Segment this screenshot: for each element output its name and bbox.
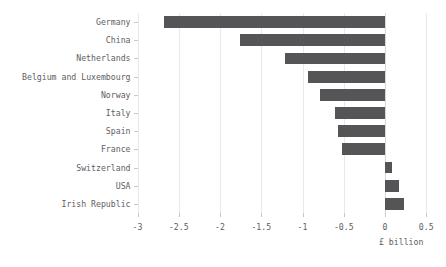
plot-area <box>138 13 427 213</box>
y-axis-tick-mark <box>134 204 138 205</box>
x-axis-tick-mark <box>344 213 345 217</box>
bar <box>240 34 385 46</box>
x-axis-tick-label: -2 <box>215 223 225 231</box>
bar <box>385 162 392 174</box>
bar-row <box>138 122 427 140</box>
y-axis-tick-mark <box>134 149 138 150</box>
x-axis-tick-mark <box>138 213 139 217</box>
x-axis-tick-mark <box>261 213 262 217</box>
bar <box>335 107 385 119</box>
x-axis-tick-label: -1 <box>298 223 308 231</box>
x-axis-title: £ billion <box>379 238 423 246</box>
x-axis-tick-label: 0 <box>383 223 388 231</box>
bar <box>342 143 385 155</box>
y-axis-tick-mark <box>134 95 138 96</box>
bar <box>285 53 385 65</box>
bar <box>338 125 385 137</box>
bar-row <box>138 31 427 49</box>
x-axis-tick-mark <box>426 213 427 217</box>
x-axis-tick-label: -0.5 <box>334 223 354 231</box>
y-axis-tick-label: Norway <box>101 91 131 99</box>
bar <box>385 180 399 192</box>
y-axis-tick-label: Italy <box>106 109 131 117</box>
x-axis-tick-label: -1.5 <box>251 223 271 231</box>
bar-row <box>138 86 427 104</box>
x-axis-tick-label: -2.5 <box>169 223 189 231</box>
x-axis-tick-mark <box>303 213 304 217</box>
y-axis-tick-mark <box>134 113 138 114</box>
bar-row <box>138 13 427 31</box>
x-axis-tick-mark <box>179 213 180 217</box>
y-axis-tick-label: USA <box>116 182 131 190</box>
x-axis-tick-mark <box>220 213 221 217</box>
gridline-0p5 <box>426 13 427 213</box>
y-axis-tick-mark <box>134 131 138 132</box>
bar <box>164 16 385 28</box>
y-axis-tick-label: Germany <box>96 18 131 26</box>
bar-row <box>138 104 427 122</box>
y-axis-tick-label: Netherlands <box>76 54 130 62</box>
y-axis-tick-mark <box>134 58 138 59</box>
y-axis-tick-label: Spain <box>106 127 131 135</box>
bar <box>320 89 385 101</box>
bar-row <box>138 68 427 86</box>
bar-row <box>138 158 427 176</box>
y-axis-tick-label: Irish Republic <box>61 200 130 208</box>
y-axis-tick-label: Switzerland <box>76 164 130 172</box>
y-axis-tick-mark <box>134 40 138 41</box>
y-axis-tick-label: China <box>106 36 131 44</box>
y-axis-tick-label: Belgium and Luxembourg <box>22 73 130 81</box>
x-axis-tick-label: -3 <box>133 223 143 231</box>
bar-row <box>138 177 427 195</box>
bar-row <box>138 195 427 213</box>
y-axis-tick-mark <box>134 77 138 78</box>
bar-row <box>138 49 427 67</box>
y-axis-tick-label: France <box>101 145 131 153</box>
bar-row <box>138 140 427 158</box>
y-axis-tick-mark <box>134 168 138 169</box>
bar-chart: GermanyChinaNetherlandsBelgium and Luxem… <box>0 0 446 267</box>
y-axis-tick-mark <box>134 186 138 187</box>
y-axis-tick-mark <box>134 22 138 23</box>
x-axis-tick-label: 0.5 <box>419 223 434 231</box>
bar <box>385 198 404 210</box>
bar <box>308 71 385 83</box>
x-axis-tick-mark <box>385 213 386 217</box>
